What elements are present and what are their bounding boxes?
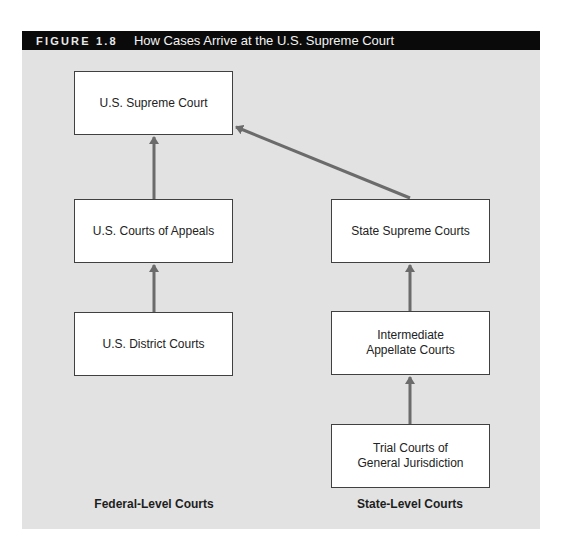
state-level-label: State-Level Courts	[357, 497, 463, 511]
node-state-supreme-courts: State Supreme Courts	[331, 199, 490, 263]
federal-level-label: Federal-Level Courts	[94, 497, 213, 511]
node-trial-courts: Trial Courts of General Jurisdiction	[331, 424, 490, 488]
node-us-district-courts: U.S. District Courts	[74, 312, 233, 376]
node-label: U.S. Courts of Appeals	[93, 224, 214, 239]
node-intermediate-appellate-courts: Intermediate Appellate Courts	[331, 311, 490, 375]
node-us-supreme-court: U.S. Supreme Court	[74, 71, 233, 135]
node-label: U.S. District Courts	[102, 337, 204, 352]
node-label: Intermediate Appellate Courts	[366, 328, 455, 358]
arrow-state-supreme-to-us-supreme	[236, 127, 410, 198]
node-label: U.S. Supreme Court	[99, 96, 207, 111]
node-us-courts-of-appeals: U.S. Courts of Appeals	[74, 199, 233, 263]
node-label: Trial Courts of General Jurisdiction	[357, 441, 463, 471]
node-label: State Supreme Courts	[351, 224, 470, 239]
